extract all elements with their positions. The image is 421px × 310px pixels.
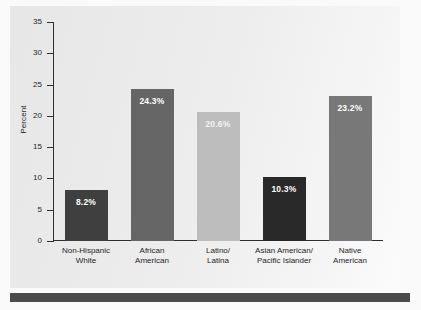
category-label-line-1: Native bbox=[313, 246, 387, 256]
y-axis-tick-label-text: 30 bbox=[8, 49, 42, 57]
y-axis-tick-label-text: 35 bbox=[8, 18, 42, 26]
x-axis-category-label: NativeAmerican bbox=[313, 246, 387, 266]
y-axis-tick-label-text: 15 bbox=[8, 143, 42, 151]
bar-value-label: 24.3% bbox=[131, 96, 174, 106]
x-axis-category-label: Latino/Latina bbox=[181, 246, 255, 266]
category-label-line-1: Non-Hispanic bbox=[49, 246, 123, 256]
category-label-line-1: Latino/ bbox=[181, 246, 255, 256]
x-axis-category-label: AfricanAmerican bbox=[115, 246, 189, 266]
y-axis-tick-label: 0 bbox=[8, 237, 42, 245]
bar: 23.2% bbox=[329, 96, 372, 241]
y-axis-tick-mark bbox=[47, 241, 54, 242]
bar-value-label: 10.3% bbox=[263, 184, 306, 194]
y-axis-tick-label: 25 bbox=[8, 81, 42, 89]
category-label-line-1: Asian American/ bbox=[247, 246, 321, 256]
x-axis-category-label: Non-HispanicWhite bbox=[49, 246, 123, 266]
category-label-line-2: White bbox=[49, 256, 123, 266]
bar: 24.3% bbox=[131, 89, 174, 241]
bar-value-label: 23.2% bbox=[329, 103, 372, 113]
bar: 10.3% bbox=[263, 177, 306, 241]
y-axis-tick-label-text: 20 bbox=[8, 112, 42, 120]
x-axis-category-label: Asian American/Pacific Islander bbox=[247, 246, 321, 266]
chart-figure: Percent 35302520151050 8.2%24.3%20.6%10.… bbox=[0, 0, 421, 310]
y-axis-tick-label: 15 bbox=[8, 143, 42, 151]
y-axis-tick-label-text: 0 bbox=[8, 237, 42, 245]
category-label-line-2: Latina bbox=[181, 256, 255, 266]
bar-value-label: 20.6% bbox=[197, 119, 240, 129]
bar-value-label: 8.2% bbox=[65, 197, 108, 207]
y-axis-tick-label-text: 5 bbox=[8, 206, 42, 214]
bar: 8.2% bbox=[65, 190, 108, 241]
category-label-line-2: Pacific Islander bbox=[247, 256, 321, 266]
y-axis-tick-label-text: 10 bbox=[8, 174, 42, 182]
bottom-rule bbox=[10, 293, 410, 302]
y-axis-tick-label: 20 bbox=[8, 112, 42, 120]
category-label-line-2: American bbox=[115, 256, 189, 266]
y-axis-tick-label: 5 bbox=[8, 206, 42, 214]
category-label-line-1: African bbox=[115, 246, 189, 256]
y-axis-tick-label-text: 25 bbox=[8, 81, 42, 89]
y-axis-tick-label: 30 bbox=[8, 49, 42, 57]
y-axis-tick-label: 10 bbox=[8, 174, 42, 182]
bar: 20.6% bbox=[197, 112, 240, 241]
plot-area: 8.2%24.3%20.6%10.3%23.2% bbox=[53, 22, 383, 241]
category-label-line-2: American bbox=[313, 256, 387, 266]
y-axis-tick-label: 35 bbox=[8, 18, 42, 26]
